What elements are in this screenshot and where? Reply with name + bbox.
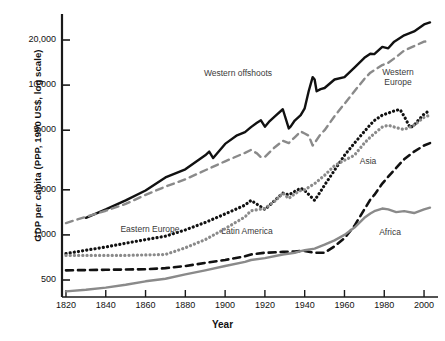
- gdp-per-capita-chart: GDP per capita (PPP, 1990 US$, log scale…: [0, 0, 445, 341]
- chart-plot-area: [0, 0, 445, 341]
- series-label: Western offshoots: [198, 68, 278, 78]
- series-label-line: Europe: [358, 77, 438, 87]
- x-tick-label: 1820: [44, 300, 88, 310]
- series-label-line: Western offshoots: [198, 68, 278, 78]
- series-label: Eastern Europe: [110, 224, 190, 234]
- series-label: WesternEurope: [358, 67, 438, 87]
- x-tick-label: 2000: [402, 300, 445, 310]
- x-tick-label: 1980: [362, 300, 406, 310]
- y-axis-ticks: [62, 40, 70, 280]
- y-tick-label: 5,000: [0, 124, 56, 134]
- series-label: Asia: [328, 156, 408, 166]
- series-label-line: Eastern Europe: [110, 224, 190, 234]
- series-line: [66, 208, 430, 292]
- series-label-line: Africa: [350, 227, 430, 237]
- y-tick-label: 2,000: [0, 184, 56, 194]
- series-label-line: Latin America: [207, 226, 287, 236]
- x-tick-label: 1880: [163, 300, 207, 310]
- series-label: Africa: [350, 227, 430, 237]
- x-tick-label: 1960: [322, 300, 366, 310]
- series-label-line: Asia: [328, 156, 408, 166]
- y-tick-label: 1,000: [0, 229, 56, 239]
- y-axis-title: GDP per capita (PPP, 1990 US$, log scale…: [32, 36, 43, 256]
- x-tick-label: 1900: [203, 300, 247, 310]
- x-axis-ticks: [66, 290, 424, 297]
- series-label-line: Western: [358, 67, 438, 77]
- series-line: [86, 22, 430, 217]
- x-tick-label: 1940: [283, 300, 327, 310]
- x-tick-label: 1860: [124, 300, 168, 310]
- series-label: Latin America: [207, 226, 287, 236]
- x-tick-label: 1920: [243, 300, 287, 310]
- x-tick-label: 1840: [84, 300, 128, 310]
- y-tick-label: 20,000: [0, 34, 56, 44]
- y-tick-label: 10,000: [0, 79, 56, 89]
- y-tick-label: 500: [0, 274, 56, 284]
- x-axis-title: Year: [0, 319, 445, 330]
